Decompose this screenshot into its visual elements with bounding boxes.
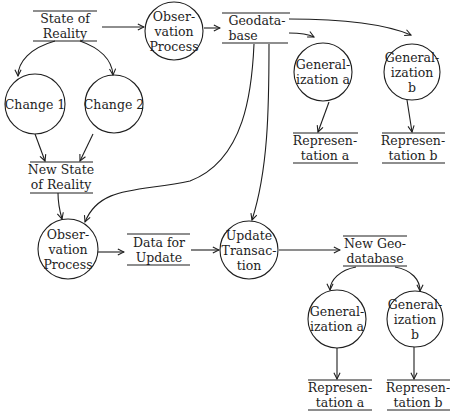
label-data-for-update: Data for Update <box>133 235 185 265</box>
label-change-1: Change 1 <box>5 97 65 112</box>
flow-gen-a-to-repr-a <box>318 102 329 132</box>
label-representation-a-bottom: Represen- tation a <box>308 380 372 410</box>
label-geodatabase: Geodata- base <box>228 13 285 43</box>
flow-state-to-change-2 <box>80 41 113 75</box>
flow-change-2-to-new-state <box>80 134 93 161</box>
label-observation-process-bottom: Obser- vation Process <box>43 227 92 272</box>
flow-geodatabase-to-gen-b <box>289 19 411 35</box>
flow-new-geodatabase-to-gen-b <box>395 267 420 291</box>
flow-gen-b-to-repr-b <box>407 100 412 132</box>
label-generalization-a-top: General- ization a <box>296 57 350 87</box>
data-flow-diagram <box>0 0 450 417</box>
label-representation-b-bottom: Represen- tation b <box>386 380 450 410</box>
label-representation-a-top: Represen- tation a <box>293 133 357 163</box>
label-state-of-reality: State of Reality <box>40 11 90 41</box>
flow-geodatabase-to-update <box>252 44 269 220</box>
flow-change-1-to-new-state <box>35 134 45 161</box>
label-new-state-of-reality: New State of Reality <box>28 162 94 192</box>
label-generalization-b-bottom: General- ization b <box>388 297 442 342</box>
label-observation-process-top: Obser- vation Process <box>149 9 198 54</box>
label-generalization-a-bottom: General- ization a <box>310 304 364 334</box>
flow-new-geodatabase-to-gen-a <box>330 267 356 290</box>
label-new-geodatabase: New Geo- database <box>344 236 406 266</box>
label-generalization-b-top: General- ization b <box>385 50 439 95</box>
flow-geodatabase-to-gen-a <box>289 33 314 37</box>
flow-new-state-to-observation <box>58 193 62 219</box>
label-representation-b-top: Represen- tation b <box>381 133 445 163</box>
label-change-2: Change 2 <box>84 97 144 112</box>
flow-state-to-change-1 <box>18 41 55 76</box>
label-update-transaction: Update Transac- tion <box>222 228 277 273</box>
